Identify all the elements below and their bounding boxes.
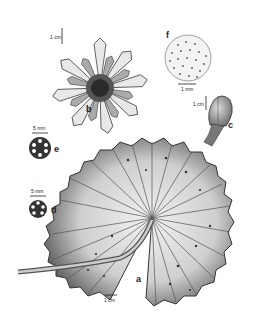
panel-label-e: e [54,144,59,154]
cross-section-e [29,137,51,159]
panel-label-a: a [136,274,142,284]
panel-label-c: c [228,120,233,130]
botanical-plate: 1 cm 1 cm 5 mm 5 mm 1 cm 1 mm a b c d e … [0,0,260,323]
flower-b [52,38,149,134]
panel-label-d: d [51,205,57,215]
scale-label-e: 5 mm [33,125,46,131]
scale-label-c: 1 cm [193,101,204,107]
panel-label-b: b [86,104,92,114]
panel-label-f: f [166,30,170,40]
scale-label-b: 1 cm [50,34,61,40]
scale-label-a: 1 cm [104,297,115,303]
scale-label-f: 1 mm [181,86,194,92]
seed-surface-f [165,35,211,81]
scale-label-d: 5 mm [31,188,44,194]
cross-section-d [29,200,47,218]
